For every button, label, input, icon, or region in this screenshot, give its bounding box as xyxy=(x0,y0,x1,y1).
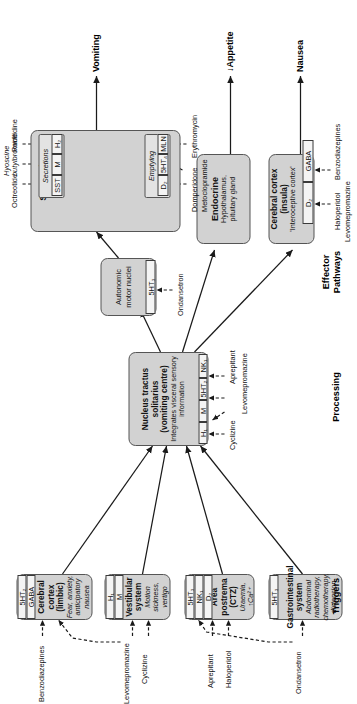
receptor-sst-stomach[interactable]: SST xyxy=(51,175,62,196)
node-quote: 'Interoceptive cortex' xyxy=(288,166,296,231)
node-title: Autonomic motor nuclei xyxy=(113,259,132,315)
node-title: Gastrointestinal system xyxy=(285,565,304,628)
receptor-m-vestibular[interactable]: M xyxy=(114,575,123,619)
receptor-5ht2-nts[interactable]: 5HT₂ xyxy=(198,378,207,400)
receptor-h1-vestibular[interactable]: H₁ xyxy=(105,575,114,619)
node-title: Nucleus tractus solitarius (vomiting cen… xyxy=(140,353,169,445)
drug-label-ondansetron-gi: Ondansetron xyxy=(294,651,303,694)
drug-label-haloperidol-area-postrema: Haloperidol xyxy=(224,651,233,688)
receptor-mln-stomach[interactable]: MLN xyxy=(157,134,168,154)
drug-label-domperidone: Domperidone xyxy=(190,168,199,212)
outcome-vomiting: Vomiting xyxy=(90,34,100,72)
receptor-5ht3-autonomic[interactable]: 5HT₃ xyxy=(145,260,155,314)
stomach-emptying-label: Emptying xyxy=(146,134,155,198)
receptor-d2-insula[interactable]: D₂ xyxy=(302,182,313,224)
receptor-gaba-limbic[interactable]: GABA xyxy=(26,575,35,619)
drug-label-benzodiazepines: Benzodiazepines xyxy=(37,646,46,702)
receptor-m-stomach[interactable]: M xyxy=(51,154,62,175)
drug-label-levomepromazine-nts: Levomepromazine xyxy=(240,353,249,414)
drug-label-erythromycin: Erythromycin xyxy=(190,115,199,158)
drug-label-haloperidol-insula: Haloperidol xyxy=(333,193,342,230)
stomach-secretions-label: Secretions xyxy=(40,134,49,198)
column-caption-triggers: Triggers xyxy=(330,558,341,634)
drug-label-ranitidine: Ranitidine xyxy=(10,119,19,152)
receptor-5ht3-area-postrema[interactable]: 5HT₃ xyxy=(185,575,194,619)
node-title: Cerebral cortex (insula) xyxy=(269,155,288,243)
receptor-h1-nts[interactable]: H₁ xyxy=(198,422,207,444)
column-caption-effector-pathways: Effector Pathways xyxy=(320,232,341,312)
drug-label-ondansetron-autonomic: Ondansetron xyxy=(176,273,185,316)
outcome-nausea: Nausea xyxy=(294,40,304,72)
receptor-5ht2-limbic[interactable]: 5HT₂ xyxy=(17,575,26,619)
receptor-5ht4-stomach[interactable]: 5HT₄ xyxy=(157,154,168,175)
receptor-m-nts[interactable]: M xyxy=(198,400,207,422)
node-subtitle: Fear, anxiety, anticipatory nausea xyxy=(65,575,90,619)
receptor-nk1-nts[interactable]: NK₁ xyxy=(198,354,207,378)
drug-label-levomepromazine-vestibular: Levomepromazine xyxy=(122,643,131,704)
node-nucleus-tractus-solitarius[interactable]: Nucleus tractus solitarius (vomiting cen… xyxy=(128,352,208,446)
drug-label-benzodiazepines-insula: Benzodiazepines xyxy=(333,124,342,180)
node-title: Vestibular system xyxy=(124,575,143,619)
receptor-d2-area-postrema[interactable]: D₂ xyxy=(203,575,212,619)
receptor-nk1-area-postrema[interactable]: NK₁ xyxy=(194,575,203,619)
drug-label-cyclizine-vestibular: Cyclizine xyxy=(140,654,149,684)
drug-label-aprepitant-nts: Aprepitant xyxy=(228,350,237,384)
node-subtitle: Motion sickness, vertigo xyxy=(143,575,168,619)
node-subtitle: Uraemia, ↑Ca²⁺ xyxy=(238,575,255,619)
receptor-h2-stomach[interactable]: H₂ xyxy=(51,134,62,154)
receptor-d2-stomach[interactable]: D₂ xyxy=(157,175,168,196)
receptor-gaba-insula[interactable]: GABA xyxy=(302,140,313,182)
node-subtitle: Integrates visceral sensory information xyxy=(169,356,186,442)
node-title: Cerebral cortex (limbic) xyxy=(36,575,65,619)
node-subtitle: Hypothalamus, pituitary gland xyxy=(219,175,236,223)
drug-label-levomepromazine-insula: Levomepromazine xyxy=(343,181,352,242)
receptor-5ht3-gi[interactable]: 5HT₃ xyxy=(269,575,278,619)
drug-label-metoclopramide: Metoclopramide xyxy=(200,159,209,212)
outcome-appetite: ↓Appetite xyxy=(224,32,234,73)
node-title: Area postrema (CTZ) xyxy=(209,575,238,619)
drug-label-octreotide: Octreotide xyxy=(10,174,19,208)
drug-label-cyclizine-nts: Cyclizine xyxy=(228,420,237,450)
column-caption-processing: Processing xyxy=(330,352,341,442)
drug-label-aprepitant-area-postrema: Aprepitant xyxy=(206,654,215,688)
